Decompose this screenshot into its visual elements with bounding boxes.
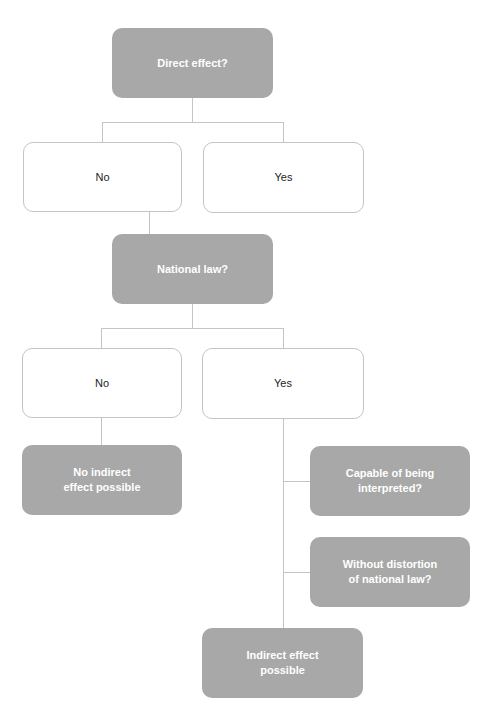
node-no-indirect-effect: No indirect effect possible — [22, 445, 182, 515]
node-national-no: No — [22, 348, 182, 418]
node-national-law: National law? — [112, 234, 273, 304]
node-label: Without distortion of national law? — [336, 557, 444, 587]
connector — [283, 418, 284, 628]
connector — [192, 98, 193, 122]
connector — [102, 122, 103, 142]
connector — [101, 418, 102, 445]
node-label: Indirect effect possible — [238, 648, 327, 678]
connector — [101, 328, 284, 329]
node-label: National law? — [157, 262, 228, 277]
node-label: Yes — [274, 376, 292, 391]
node-direct-no: No — [23, 142, 182, 212]
node-national-yes: Yes — [202, 348, 364, 419]
node-label: Direct effect? — [157, 56, 227, 71]
node-label: No indirect effect possible — [60, 465, 144, 495]
node-indirect-effect-possible: Indirect effect possible — [202, 628, 363, 698]
node-label: Capable of being interpreted? — [344, 466, 436, 496]
node-label: Yes — [275, 170, 293, 185]
node-direct-yes: Yes — [203, 142, 364, 213]
connector — [283, 122, 284, 142]
connector — [149, 212, 150, 234]
connector — [283, 481, 310, 482]
node-direct-effect: Direct effect? — [112, 28, 273, 98]
connector — [283, 328, 284, 348]
connector — [101, 328, 102, 348]
node-capable-of-interpretation: Capable of being interpreted? — [310, 446, 470, 516]
connector — [102, 122, 284, 123]
node-without-distortion: Without distortion of national law? — [310, 537, 470, 607]
connector — [283, 572, 310, 573]
connector — [192, 304, 193, 328]
node-label: No — [95, 376, 109, 391]
node-label: No — [95, 170, 109, 185]
